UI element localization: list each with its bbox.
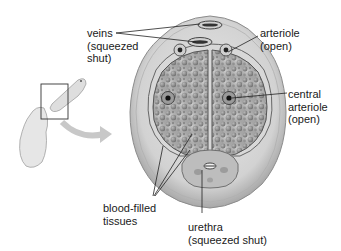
zoom-arrow	[62, 122, 104, 136]
label-arteriole: arteriole (open)	[260, 27, 300, 52]
label-blood-filled-tissues: blood-filled tissues	[103, 202, 156, 227]
zoom-arrowhead	[100, 126, 112, 143]
label-veins: veins (squeezed shut)	[87, 27, 138, 65]
label-urethra: urethra (squeezed shut)	[188, 221, 267, 246]
penis-overview-icon	[20, 79, 86, 168]
label-central-arteriole: central arteriole (open)	[288, 88, 328, 126]
